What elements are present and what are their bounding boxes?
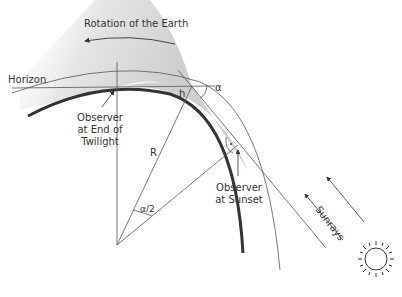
alpha-arc <box>200 86 207 98</box>
sunray-arrow-2 <box>327 177 364 222</box>
h-label: h <box>179 88 185 100</box>
sunset-observer-label: Observer at Sunset <box>210 182 268 206</box>
twilight-observer-arrow <box>102 91 114 107</box>
rotation-label: Rotation of the Earth <box>84 18 188 30</box>
tangent-sunray <box>178 70 326 248</box>
earth-surface <box>28 89 243 253</box>
horizon-label: Horizon <box>8 74 46 86</box>
sun-icon <box>358 241 394 277</box>
radius-line <box>117 86 192 245</box>
r-label: R <box>150 147 157 159</box>
alpha-label: α <box>215 82 222 94</box>
twilight-diagram <box>0 0 402 297</box>
twilight-observer-label: Observer at End of Twilight <box>72 112 128 148</box>
half-alpha-label: α/2 <box>140 203 155 215</box>
